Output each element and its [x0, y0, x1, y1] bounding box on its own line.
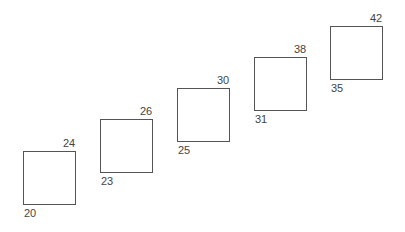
square-box: [177, 88, 230, 142]
bottom-left-label: 20: [24, 208, 36, 219]
top-right-label: 38: [294, 44, 306, 55]
top-right-label: 30: [217, 75, 229, 86]
top-right-label: 26: [140, 106, 152, 117]
square-box: [254, 57, 307, 111]
bottom-left-label: 25: [178, 145, 190, 156]
bottom-left-label: 35: [331, 83, 343, 94]
square-box: [23, 151, 76, 205]
square-box: [100, 119, 153, 173]
top-right-label: 42: [370, 13, 382, 24]
bottom-left-label: 23: [101, 176, 113, 187]
top-right-label: 24: [63, 138, 75, 149]
square-box: [330, 26, 383, 80]
bottom-left-label: 31: [255, 114, 267, 125]
